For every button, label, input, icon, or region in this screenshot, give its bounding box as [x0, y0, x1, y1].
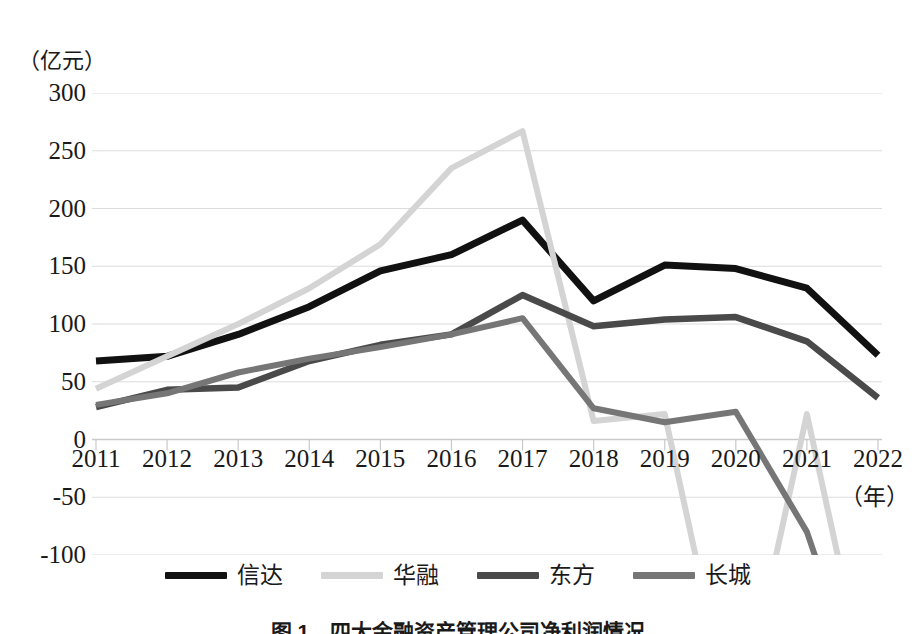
x-axis-tick-labels: 2011201220132014201520162017201820192020… — [92, 444, 892, 478]
series-lines — [96, 131, 878, 555]
plot-area — [92, 93, 882, 555]
x-tick-label: 2011 — [56, 444, 136, 474]
chart-legend: 信达华融东方长城 — [0, 558, 916, 592]
legend-label: 长城 — [705, 564, 751, 587]
y-tick-label: 150 — [8, 253, 86, 278]
x-tick-label: 2015 — [340, 444, 420, 474]
x-tick-label: 2012 — [127, 444, 207, 474]
legend-swatch-icon — [633, 572, 695, 579]
legend-swatch-icon — [165, 572, 227, 579]
figure-container: （亿元） 300250200150100500-50-100 201120122… — [0, 0, 916, 634]
y-tick-label: 250 — [8, 138, 86, 163]
y-tick-label: 200 — [8, 196, 86, 221]
legend-item-信达[interactable]: 信达 — [165, 564, 283, 587]
legend-label: 信达 — [237, 564, 283, 587]
series-line-东方 — [96, 295, 878, 407]
x-axis-unit-label: （年） — [840, 478, 909, 512]
y-axis-tick-labels: 300250200150100500-50-100 — [0, 0, 86, 634]
x-tick-label: 2014 — [269, 444, 349, 474]
x-tick-label: 2013 — [198, 444, 278, 474]
legend-label: 华融 — [393, 564, 439, 587]
legend-label: 东方 — [549, 564, 595, 587]
legend-item-华融[interactable]: 华融 — [321, 564, 439, 587]
x-tick-label: 2021 — [767, 444, 847, 474]
x-tick-label: 2018 — [554, 444, 634, 474]
y-tick-label: 300 — [8, 80, 86, 105]
x-tick-label: 2016 — [411, 444, 491, 474]
y-tick-label: 50 — [8, 369, 86, 394]
legend-swatch-icon — [477, 572, 539, 579]
x-tick-label: 2020 — [696, 444, 776, 474]
legend-swatch-icon — [321, 572, 383, 579]
figure-caption: 图 1 四大金融资产管理公司净利润情况 — [0, 620, 916, 634]
legend-item-东方[interactable]: 东方 — [477, 564, 595, 587]
legend-item-长城[interactable]: 长城 — [633, 564, 751, 587]
x-tick-label: 2022 — [838, 444, 916, 474]
x-tick-label: 2019 — [625, 444, 705, 474]
series-line-信达 — [96, 220, 878, 361]
x-tick-label: 2017 — [483, 444, 563, 474]
y-tick-label: 100 — [8, 311, 86, 336]
chart-svg — [92, 93, 882, 555]
series-line-长城 — [96, 318, 878, 555]
y-tick-label: -50 — [8, 484, 86, 509]
